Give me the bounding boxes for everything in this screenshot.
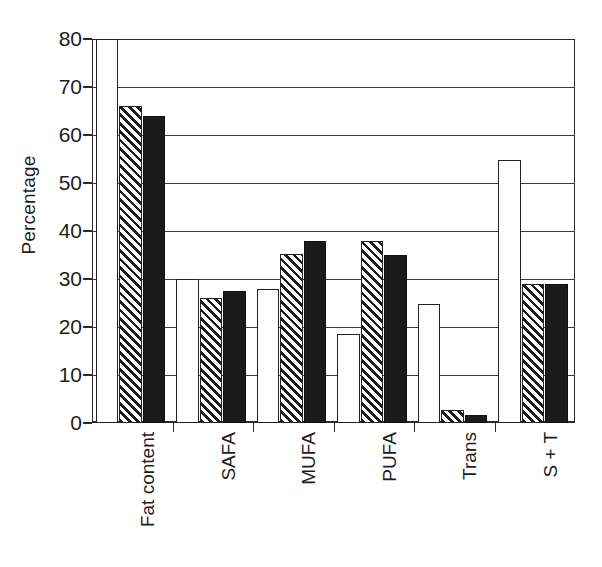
x-tick-3 <box>414 423 415 432</box>
y-tick-label-50: 50 <box>26 171 82 195</box>
y-tick-label-0: 0 <box>26 411 82 435</box>
bar-trans-s1 <box>418 304 441 423</box>
x-tick-4 <box>495 423 496 432</box>
y-tick-label-40: 40 <box>26 219 82 243</box>
y-tick-30 <box>83 278 92 279</box>
bar-s-t-s2 <box>522 284 545 423</box>
x-category-label-mufa: MUFA <box>299 432 318 485</box>
gridline-70 <box>92 87 575 88</box>
bar-fat-content-s2 <box>119 106 142 423</box>
axis-line-top <box>92 39 575 40</box>
plot-area: 01020304050607080 <box>92 39 575 423</box>
bar-mufa-s1 <box>257 289 280 423</box>
x-category-label-s-t: S + T <box>541 432 560 478</box>
bar-chart-figure: Percentage 01020304050607080 Fat content… <box>0 0 602 567</box>
bar-mufa-s2 <box>280 254 303 423</box>
y-tick-60 <box>83 134 92 135</box>
x-category-label-pufa: PUFA <box>380 432 399 482</box>
bar-trans-s2 <box>441 410 464 423</box>
y-tick-label-20: 20 <box>26 315 82 339</box>
y-tick-label-70: 70 <box>26 75 82 99</box>
x-category-label-trans: Trans <box>460 432 479 480</box>
bar-fat-content-s3 <box>143 116 166 423</box>
y-tick-label-80: 80 <box>26 27 82 51</box>
bar-mufa-s3 <box>304 241 327 423</box>
bar-pufa-s1 <box>337 334 360 423</box>
y-tick-40 <box>83 230 92 231</box>
x-tick-1 <box>253 423 254 432</box>
x-category-label-fat-content: Fat content <box>138 432 157 527</box>
y-tick-0 <box>83 422 92 423</box>
bar-fat-content-s1 <box>96 39 119 423</box>
bar-safa-s2 <box>200 298 223 423</box>
bar-pufa-s2 <box>361 241 384 423</box>
bar-trans-s3 <box>465 415 488 423</box>
y-tick-label-60: 60 <box>26 123 82 147</box>
bar-s-t-s3 <box>545 284 568 423</box>
y-tick-10 <box>83 374 92 375</box>
y-tick-label-10: 10 <box>26 363 82 387</box>
y-tick-20 <box>83 326 92 327</box>
x-category-label-safa: SAFA <box>219 432 238 481</box>
bar-s-t-s1 <box>498 160 521 423</box>
bar-safa-s1 <box>176 279 199 423</box>
y-tick-50 <box>83 182 92 183</box>
x-tick-2 <box>334 423 335 432</box>
y-tick-label-30: 30 <box>26 267 82 291</box>
y-tick-70 <box>83 86 92 87</box>
bar-pufa-s3 <box>384 255 407 423</box>
y-tick-80 <box>83 38 92 39</box>
bar-safa-s3 <box>223 291 246 423</box>
x-tick-0 <box>173 423 174 432</box>
